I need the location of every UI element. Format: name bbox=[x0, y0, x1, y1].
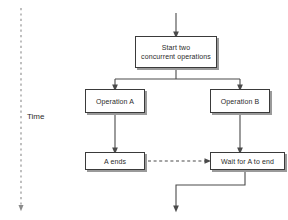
edge-wait-to-exit bbox=[176, 170, 245, 209]
node-operation-b[interactable]: Operation B bbox=[210, 89, 270, 113]
node-operation-a[interactable]: Operation A bbox=[85, 89, 145, 113]
node-wait-for-a-to-end[interactable]: Wait for A to end bbox=[210, 152, 285, 170]
node-start-two-concurrent-operations[interactable]: Start two concurrent operations bbox=[135, 36, 217, 68]
diagram-canvas: Time Start two concurrent operations Ope… bbox=[0, 0, 288, 220]
node-a-ends[interactable]: A ends bbox=[85, 152, 145, 170]
node-start-label: Start two concurrent operations bbox=[138, 43, 214, 61]
node-a-ends-label: A ends bbox=[101, 157, 129, 166]
node-operation-b-label: Operation B bbox=[218, 97, 262, 106]
time-axis-label: Time bbox=[27, 112, 44, 121]
node-operation-a-label: Operation A bbox=[93, 97, 137, 106]
node-wait-for-a-to-end-label: Wait for A to end bbox=[218, 157, 277, 166]
